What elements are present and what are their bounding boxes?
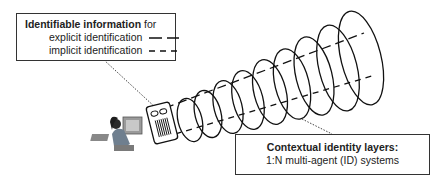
legend-title: Identifiable information for: [25, 18, 175, 31]
legend-leader-line: [104, 60, 156, 108]
short-dash-swatch-icon: [149, 48, 179, 54]
identity-layer-rings: [173, 7, 392, 145]
layers-box-title: Contextual identity layers:: [267, 141, 398, 153]
layers-box: Contextual identity layers: 1:N multi-ag…: [235, 134, 430, 175]
legend-title-bold: Identifiable information: [25, 18, 141, 30]
legend-item-explicit: explicit identification: [25, 31, 175, 44]
layers-box-subtitle: 1:N multi-agent (ID) systems: [236, 154, 429, 167]
legend-item-label: explicit identification: [49, 31, 142, 43]
layers-leader-line: [302, 119, 332, 134]
long-dash-swatch-icon: [149, 35, 179, 41]
legend-box: Identifiable information for explicit id…: [16, 13, 176, 61]
person-at-computer-icon: [90, 117, 142, 151]
legend-item-implicit: implicit identification: [25, 44, 175, 57]
implicit-identification-line: [165, 76, 372, 137]
id-card-device-icon: [146, 102, 178, 145]
legend-title-rest: for: [141, 18, 156, 30]
legend-item-label: implicit identification: [49, 44, 142, 56]
